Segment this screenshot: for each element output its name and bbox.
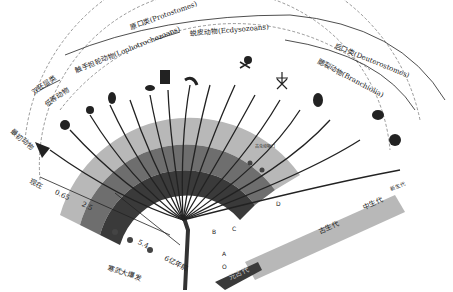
node-c: C	[232, 225, 236, 232]
phylogeny-diagram: 原口类(Protostomes) 蜕皮动物(Ecdysozoans) 触手担轮动…	[0, 0, 453, 292]
node-o: O	[222, 263, 227, 270]
fan-graphic	[0, 0, 453, 292]
node-d: D	[276, 200, 281, 207]
fossil-label: 古虫动物门	[255, 143, 275, 149]
node-b: B	[212, 228, 216, 235]
node-a: A	[222, 250, 226, 257]
